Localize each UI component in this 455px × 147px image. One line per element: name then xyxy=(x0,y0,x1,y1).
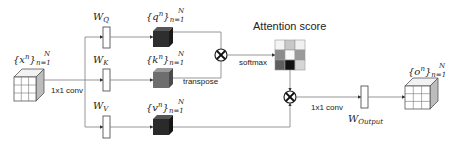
output-feature-cube xyxy=(405,78,438,109)
attention-cell xyxy=(295,40,305,50)
multiply-operator-icon xyxy=(215,49,227,61)
output-label-top: N xyxy=(438,62,446,70)
attention-score-grid xyxy=(275,40,305,70)
conv-out-label: 1x1 conv xyxy=(311,103,343,112)
softmax-label: softmax xyxy=(239,58,267,67)
multiply-operator-icon xyxy=(284,91,296,103)
attention-cell xyxy=(295,60,305,70)
v-label-top: N xyxy=(177,98,185,106)
woutput-label: WOutput xyxy=(348,113,383,126)
input-label-top: N xyxy=(43,50,51,58)
wv-label: WV xyxy=(93,100,109,113)
input-feature-cube xyxy=(14,69,44,101)
value-cube xyxy=(153,115,173,135)
conv-in-label: 1x1 conv xyxy=(51,86,83,95)
attention-cell xyxy=(285,40,295,50)
attention-cell xyxy=(275,50,285,60)
woutput-conv-box xyxy=(361,86,368,108)
q-label-top: N xyxy=(177,7,185,15)
wk-conv-box xyxy=(103,69,110,91)
wk-label: WK xyxy=(93,54,109,67)
attention-cell xyxy=(285,50,295,60)
attention-cell xyxy=(275,40,285,50)
attention-score-title: Attention score xyxy=(253,20,326,32)
query-cube xyxy=(153,27,173,47)
attention-cell xyxy=(275,60,285,70)
self-attention-diagram: {xn}n=1 N 1x1 conv WQ WK WV {qn}n=1 N {k… xyxy=(0,0,455,147)
wq-label: WQ xyxy=(93,11,109,24)
key-cube xyxy=(153,68,173,88)
transpose-label: transpose xyxy=(183,77,219,86)
wq-conv-box xyxy=(103,27,110,48)
attention-cell xyxy=(285,60,295,70)
wv-conv-box xyxy=(103,116,110,138)
k-label-top: N xyxy=(177,50,185,58)
attention-cell xyxy=(295,50,305,60)
